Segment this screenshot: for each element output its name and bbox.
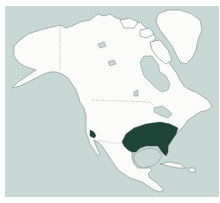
north-america-map xyxy=(5,6,219,197)
gulf-of-mexico xyxy=(134,148,162,168)
cuba xyxy=(160,162,186,168)
map-frame xyxy=(5,6,219,197)
hispaniola xyxy=(188,168,196,172)
